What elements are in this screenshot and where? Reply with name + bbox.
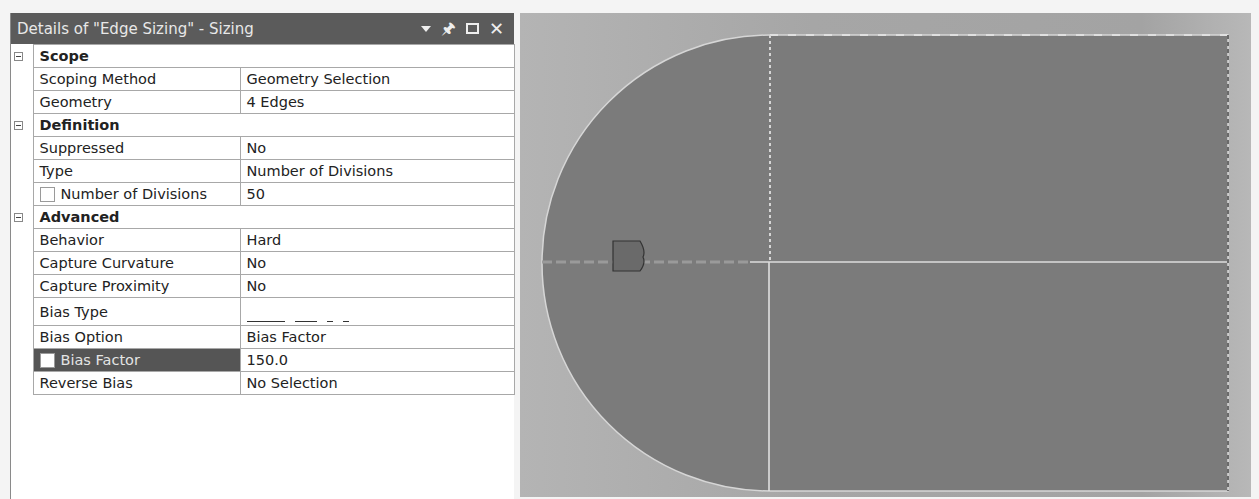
property-value[interactable]: 4 Edges — [240, 91, 514, 114]
close-icon[interactable]: ✕ — [489, 20, 504, 38]
property-key-with-checkbox: Bias Factor — [33, 349, 240, 372]
property-key: Type — [33, 160, 240, 183]
table-row-selected[interactable]: Bias Factor 150.0 — [11, 349, 514, 372]
bias-direction-marker-icon[interactable] — [613, 241, 644, 271]
property-key: Bias Type — [33, 298, 240, 326]
table-row[interactable]: Suppressed No — [11, 137, 514, 160]
table-row[interactable]: Scoping Method Geometry Selection — [11, 68, 514, 91]
property-value[interactable]: 50 — [240, 183, 514, 206]
maximize-icon[interactable] — [466, 23, 479, 34]
table-row[interactable]: Capture Curvature No — [11, 252, 514, 275]
section-header: Advanced — [33, 206, 514, 229]
details-title: Details of "Edge Sizing" - Sizing — [17, 20, 421, 38]
table-row[interactable]: Geometry 4 Edges — [11, 91, 514, 114]
table-row[interactable]: Reverse Bias No Selection — [11, 372, 514, 395]
table-row[interactable]: Bias Option Bias Factor — [11, 326, 514, 349]
property-key: Behavior — [33, 229, 240, 252]
property-value[interactable]: No — [240, 252, 514, 275]
details-title-bar[interactable]: Details of "Edge Sizing" - Sizing 🖈︎ ✕ — [11, 13, 514, 44]
property-key-label: Bias Factor — [61, 352, 140, 368]
table-row[interactable]: Capture Proximity No — [11, 275, 514, 298]
bias-type-decreasing-dashes-icon — [247, 298, 349, 322]
property-value[interactable]: Geometry Selection — [240, 68, 514, 91]
property-value[interactable]: 150.0 — [240, 349, 514, 372]
property-key: Suppressed — [33, 137, 240, 160]
property-value[interactable]: Hard — [240, 229, 514, 252]
collapse-definition-icon[interactable] — [14, 121, 23, 130]
table-row[interactable]: Bias Type — [11, 298, 514, 326]
property-key: Capture Proximity — [33, 275, 240, 298]
geometry-canvas[interactable] — [520, 13, 1251, 497]
property-value[interactable]: No — [240, 275, 514, 298]
section-definition[interactable]: Definition — [11, 114, 514, 137]
property-value[interactable]: Bias Factor — [240, 326, 514, 349]
section-header: Definition — [33, 114, 514, 137]
collapse-advanced-icon[interactable] — [14, 213, 23, 222]
table-row[interactable]: Behavior Hard — [11, 229, 514, 252]
property-key: Bias Option — [33, 326, 240, 349]
property-key: Geometry — [33, 91, 240, 114]
property-value[interactable]: No Selection — [240, 372, 514, 395]
parameter-checkbox[interactable] — [40, 187, 55, 202]
details-panel: Details of "Edge Sizing" - Sizing 🖈︎ ✕ S… — [10, 13, 514, 499]
table-row[interactable]: Type Number of Divisions — [11, 160, 514, 183]
pin-icon[interactable]: 🖈︎ — [441, 21, 456, 37]
property-key: Capture Curvature — [33, 252, 240, 275]
property-key: Reverse Bias — [33, 372, 240, 395]
collapse-scope-icon[interactable] — [14, 52, 23, 61]
property-value[interactable]: Number of Divisions — [240, 160, 514, 183]
dropdown-icon[interactable] — [421, 26, 431, 32]
section-header: Scope — [33, 45, 514, 68]
property-key-label: Number of Divisions — [61, 186, 207, 202]
property-key-with-checkbox: Number of Divisions — [33, 183, 240, 206]
properties-grid: Scope Scoping Method Geometry Selection … — [11, 44, 515, 395]
title-bar-controls: 🖈︎ ✕ — [421, 20, 514, 38]
property-key: Scoping Method — [33, 68, 240, 91]
parameter-checkbox[interactable] — [40, 353, 55, 368]
table-row[interactable]: Number of Divisions 50 — [11, 183, 514, 206]
section-advanced[interactable]: Advanced — [11, 206, 514, 229]
graphics-viewport[interactable] — [520, 13, 1251, 497]
property-value[interactable]: No — [240, 137, 514, 160]
section-scope[interactable]: Scope — [11, 45, 514, 68]
bias-type-value[interactable] — [240, 298, 514, 326]
